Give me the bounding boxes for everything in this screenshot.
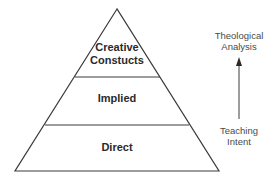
axis-bottom-label: Teaching Intent <box>209 125 269 147</box>
axis-bottom-line1: Teaching <box>209 125 269 136</box>
level-creative-constructs: Creative Constucts <box>77 41 157 67</box>
axis-bottom-line2: Intent <box>209 136 269 147</box>
level-label: Creative <box>77 41 157 54</box>
arrow-up-icon <box>236 57 242 66</box>
level-implied: Implied <box>77 92 157 105</box>
level-direct: Direct <box>77 141 157 154</box>
axis-top-line2: Analysis <box>209 41 269 52</box>
axis-top-line1: Theological <box>209 30 269 41</box>
axis-top-label: Theological Analysis <box>209 30 269 52</box>
level-label: Constucts <box>77 54 157 67</box>
